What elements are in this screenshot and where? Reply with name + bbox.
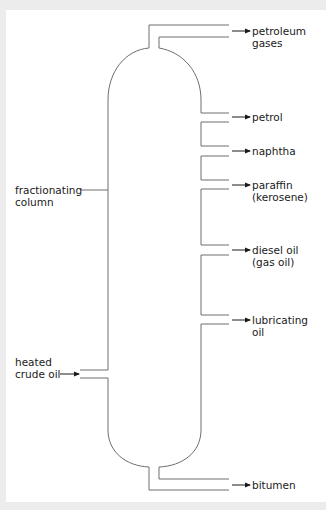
label-bitumen: bitumen — [252, 479, 296, 491]
label-fractionating-column: fractionating column — [15, 184, 82, 208]
label-paraffin-kerosene: paraffin (kerosene) — [252, 179, 308, 203]
top-outlet-inner — [159, 37, 229, 48]
label-petrol: petrol — [252, 111, 283, 123]
top-dome-right — [159, 48, 201, 100]
column-outline — [80, 25, 229, 490]
outlet-lubricating-section — [201, 255, 229, 315]
left-wall-lower — [80, 378, 108, 430]
left-wall-upper — [80, 100, 108, 370]
right-wall-lower — [201, 324, 229, 430]
bottom-outlet-inner — [159, 467, 229, 479]
arrows — [60, 31, 250, 485]
top-dome-left — [108, 48, 149, 100]
bottom-dome-right — [159, 430, 201, 467]
label-diesel-oil: diesel oil (gas oil) — [252, 244, 299, 268]
outlet-paraffin-section — [201, 156, 229, 180]
label-petroleum-gases: petroleum gases — [252, 25, 306, 49]
outlet-naphtha-section — [201, 122, 229, 146]
bottom-dome-left — [108, 430, 149, 467]
outlet-petrol-lower — [201, 100, 229, 113]
outlet-diesel-section — [201, 189, 229, 245]
label-lubricating-oil: lubricating oil — [252, 314, 308, 338]
label-naphtha: naphtha — [252, 145, 296, 157]
label-heated-crude-oil: heated crude oil — [15, 356, 60, 380]
